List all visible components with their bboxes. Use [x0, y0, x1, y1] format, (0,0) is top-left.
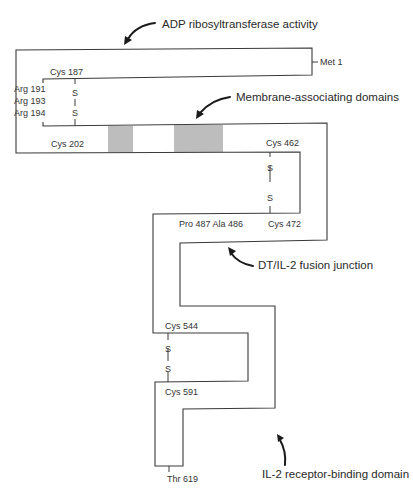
disulfide-s-3b: S	[165, 364, 171, 374]
membrane-band-2	[174, 125, 223, 152]
residue-cys591: Cys 591	[165, 387, 198, 397]
residue-cys202: Cys 202	[51, 139, 84, 149]
residue-arg193: Arg 193	[14, 96, 46, 106]
disulfide-s-1b: S	[72, 108, 78, 118]
residue-thr619: Thr 619	[167, 474, 198, 484]
disulfide-s-3a: S	[165, 344, 171, 354]
translocation-outer-outline	[43, 122, 327, 466]
translocation-domain-outline	[16, 126, 300, 333]
residue-pro487-ala486: Pro 487 Ala 486	[179, 219, 243, 229]
residue-arg191: Arg 191	[14, 84, 46, 94]
residue-cys187: Cys 187	[50, 67, 83, 77]
residue-met1: Met 1	[320, 57, 343, 67]
catalytic-domain-outline	[16, 48, 312, 126]
label-fusion-junction: DT/IL-2 fusion junction	[258, 259, 373, 271]
label-il2-domain: IL-2 receptor-binding domain	[262, 468, 409, 480]
residue-cys472: Cys 472	[268, 219, 301, 229]
membrane-band-1	[108, 126, 133, 152]
arrow-fusion-icon	[228, 247, 253, 266]
arrow-adp-icon	[124, 23, 155, 45]
label-adp-activity: ADP ribosyltransferase activity	[162, 18, 318, 30]
residue-arg194: Arg 194	[14, 108, 46, 118]
arrow-membrane-icon	[196, 97, 230, 119]
protein-diagram: ADP ribosyltransferase activity Membrane…	[0, 0, 413, 498]
residue-cys544: Cys 544	[165, 321, 198, 331]
disulfide-s-2b: S	[267, 193, 273, 203]
il2-loop-outline	[157, 333, 248, 382]
disulfide-s-1a: S	[72, 88, 78, 98]
label-membrane-domains: Membrane-associating domains	[236, 91, 399, 103]
arrow-il2-icon	[277, 434, 285, 465]
residue-cys462: Cys 462	[266, 138, 299, 148]
disulfide-s-2a: S	[267, 163, 273, 173]
